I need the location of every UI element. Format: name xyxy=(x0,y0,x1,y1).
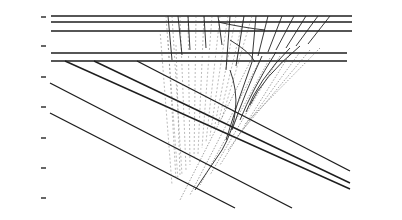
dipping-layer-lines xyxy=(50,61,350,208)
y-axis-ticks xyxy=(41,17,46,198)
horizontal-layer-lines xyxy=(51,16,352,61)
ray-paths-fan xyxy=(180,48,320,200)
ray-trace-diagram xyxy=(0,0,402,220)
ray-paths-strong xyxy=(168,16,330,190)
